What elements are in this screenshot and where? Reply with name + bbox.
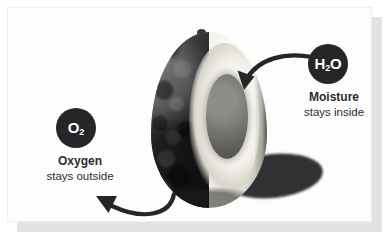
oxygen-arrow-icon xyxy=(86,186,178,222)
moisture-badge-formula: H2O xyxy=(315,55,342,73)
moisture-badge-hydrogen: H xyxy=(315,55,326,72)
moisture-arrow-icon xyxy=(224,48,316,96)
moisture-arrow-curve xyxy=(246,55,312,80)
oxygen-badge-element: O xyxy=(68,119,79,136)
oxygen-arrow-curve xyxy=(112,194,174,214)
oxygen-badge-subscript: 2 xyxy=(79,127,84,137)
moisture-label-subtitle: stays inside xyxy=(278,105,372,119)
moisture-badge-oxygen: O xyxy=(330,55,341,72)
oxygen-badge-formula: O2 xyxy=(68,119,84,137)
oxygen-badge: O2 xyxy=(56,108,96,148)
infographic-card-stage: O2 Oxygen stays outside H2O Moisture sta… xyxy=(0,0,389,237)
oxygen-arrow-head xyxy=(96,196,117,213)
infographic-card: O2 Oxygen stays outside H2O Moisture sta… xyxy=(7,7,372,222)
oxygen-label-subtitle: stays outside xyxy=(16,169,144,183)
oxygen-label-title: Oxygen xyxy=(16,154,144,169)
oxygen-label: Oxygen stays outside xyxy=(16,154,144,183)
